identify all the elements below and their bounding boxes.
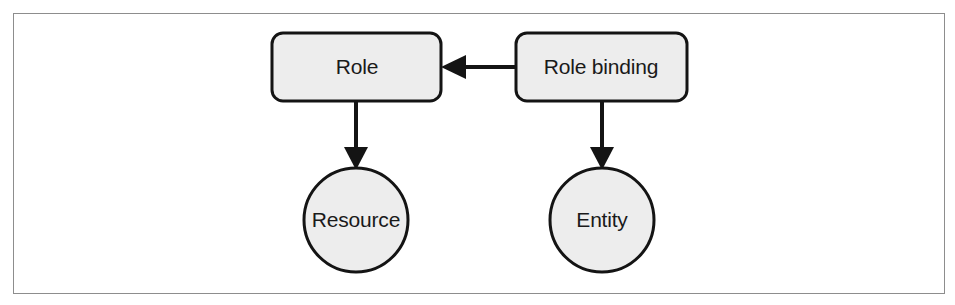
node-resource-label: Resource	[312, 208, 400, 231]
figure-root: Role Role binding Resource Entity	[0, 0, 955, 305]
diagram-svg: Role Role binding Resource Entity	[0, 0, 955, 305]
edge-role-to-resource	[344, 101, 368, 170]
edge-role-binding-to-entity	[590, 101, 614, 170]
node-role-binding[interactable]: Role binding	[516, 33, 687, 101]
node-role-binding-label: Role binding	[544, 55, 658, 78]
node-entity-label: Entity	[576, 208, 628, 231]
edge-role-binding-to-role	[441, 55, 516, 79]
node-role[interactable]: Role	[272, 33, 441, 101]
node-role-label: Role	[336, 55, 378, 78]
edge-role-binding-to-role-arrowhead	[441, 55, 466, 79]
node-resource[interactable]: Resource	[304, 168, 408, 272]
node-entity[interactable]: Entity	[550, 168, 654, 272]
diagram-canvas: Role Role binding Resource Entity	[0, 0, 955, 305]
